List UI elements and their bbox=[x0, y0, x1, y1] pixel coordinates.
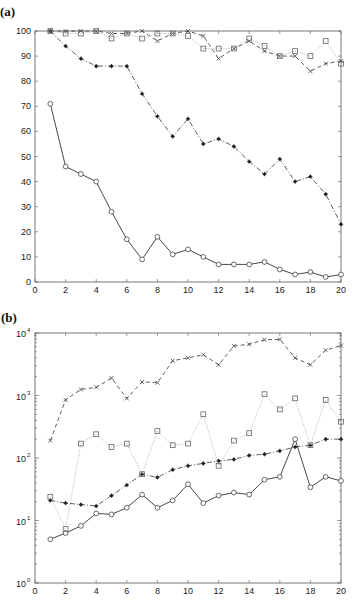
y-tick-label: 10 bbox=[16, 454, 26, 464]
data-point-circle bbox=[323, 275, 328, 280]
series-circle-solid bbox=[48, 101, 344, 279]
chart-panel-b: 02468101214161820100101102103104 bbox=[16, 327, 346, 596]
data-point-circle bbox=[155, 505, 160, 510]
data-point-circle bbox=[277, 474, 282, 479]
y-tick-label: 50 bbox=[21, 152, 31, 162]
data-point-star bbox=[63, 501, 67, 505]
x-tick-label: 20 bbox=[336, 586, 346, 596]
data-point-x bbox=[201, 34, 205, 38]
x-tick-label: 18 bbox=[305, 586, 315, 596]
data-point-x bbox=[201, 353, 205, 357]
y-tick-label: 10 bbox=[21, 252, 31, 262]
data-point-square bbox=[216, 463, 221, 468]
y-tick-label: 30 bbox=[21, 202, 31, 212]
y-tick-label: 10 bbox=[16, 329, 26, 339]
y-tick-label: 0 bbox=[26, 277, 31, 287]
figure: (a) (b) 02468101214161820010203040506070… bbox=[0, 0, 359, 607]
data-point-circle bbox=[63, 164, 68, 169]
data-point-star bbox=[155, 114, 159, 118]
data-point-x bbox=[217, 363, 221, 367]
data-point-x bbox=[155, 39, 159, 43]
data-point-star bbox=[79, 56, 83, 60]
data-point-circle bbox=[293, 272, 298, 277]
series-line-circle-solid bbox=[50, 104, 341, 277]
data-point-circle bbox=[170, 252, 175, 257]
series-line-star-dashdot bbox=[50, 439, 341, 506]
data-point-circle bbox=[79, 172, 84, 177]
data-point-star bbox=[324, 437, 328, 441]
series-line-x-dashed bbox=[50, 339, 341, 440]
x-tick-label: 14 bbox=[244, 285, 254, 295]
data-point-star bbox=[186, 464, 190, 468]
x-tick-label: 4 bbox=[94, 285, 99, 295]
data-point-star bbox=[94, 64, 98, 68]
data-point-circle bbox=[277, 267, 282, 272]
data-point-circle bbox=[293, 437, 298, 442]
data-point-star bbox=[278, 449, 282, 453]
x-tick-label: 14 bbox=[244, 586, 254, 596]
plot-area-frame bbox=[35, 31, 341, 282]
data-point-circle bbox=[262, 260, 267, 265]
x-tick-label: 0 bbox=[32, 586, 37, 596]
data-point-x bbox=[110, 32, 114, 36]
data-point-circle bbox=[186, 247, 191, 252]
data-point-square bbox=[201, 46, 206, 51]
x-tick-label: 8 bbox=[155, 285, 160, 295]
x-tick-label: 8 bbox=[155, 586, 160, 596]
data-point-star bbox=[339, 222, 343, 226]
x-tick-label: 2 bbox=[63, 586, 68, 596]
data-point-star bbox=[201, 142, 205, 146]
x-tick-label: 10 bbox=[183, 586, 193, 596]
plot-area-frame bbox=[35, 333, 341, 583]
series-circle-solid bbox=[48, 437, 344, 542]
data-point-circle bbox=[109, 209, 114, 214]
x-tick-label: 12 bbox=[214, 586, 224, 596]
data-point-circle bbox=[140, 492, 145, 497]
data-point-circle bbox=[79, 523, 84, 528]
y-tick-label: 100 bbox=[16, 26, 31, 36]
y-tick-exponent: 1 bbox=[27, 515, 31, 521]
data-point-star bbox=[216, 137, 220, 141]
data-point-circle bbox=[308, 270, 313, 275]
x-tick-label: 10 bbox=[183, 285, 193, 295]
data-point-star bbox=[109, 64, 113, 68]
data-point-x bbox=[308, 363, 312, 367]
data-point-circle bbox=[94, 511, 99, 516]
series-square-dotted bbox=[48, 392, 344, 532]
data-point-star bbox=[247, 453, 251, 457]
data-point-square bbox=[277, 407, 282, 412]
data-point-star bbox=[155, 475, 159, 479]
data-point-circle bbox=[94, 179, 99, 184]
y-tick-label: 90 bbox=[21, 51, 31, 61]
data-point-x bbox=[125, 396, 129, 400]
data-point-circle bbox=[124, 505, 129, 510]
data-point-circle bbox=[247, 492, 252, 497]
data-point-circle bbox=[170, 498, 175, 503]
y-tick-exponent: 4 bbox=[27, 327, 31, 333]
data-point-x bbox=[217, 57, 221, 61]
data-point-circle bbox=[262, 477, 267, 482]
y-tick-label: 20 bbox=[21, 227, 31, 237]
data-point-square bbox=[232, 438, 237, 443]
series-star-dashdot bbox=[48, 29, 343, 227]
data-point-star bbox=[125, 64, 129, 68]
data-point-star bbox=[94, 504, 98, 508]
x-tick-label: 4 bbox=[94, 586, 99, 596]
data-point-star bbox=[324, 192, 328, 196]
y-tick-label: 70 bbox=[21, 101, 31, 111]
data-point-square bbox=[247, 36, 252, 41]
data-point-circle bbox=[48, 537, 53, 542]
data-point-circle bbox=[232, 262, 237, 267]
y-tick-label: 10 bbox=[16, 579, 26, 589]
data-point-star bbox=[308, 443, 312, 447]
data-point-circle bbox=[186, 482, 191, 487]
x-tick-label: 12 bbox=[214, 285, 224, 295]
y-tick-label: 40 bbox=[21, 177, 31, 187]
x-tick-label: 20 bbox=[336, 285, 346, 295]
data-point-circle bbox=[323, 474, 328, 479]
series-star-dashdot bbox=[48, 437, 343, 508]
y-tick-exponent: 2 bbox=[27, 452, 31, 458]
data-point-square bbox=[155, 429, 160, 434]
chart-panel-a: 024681012141618200102030405060708090100 bbox=[16, 26, 346, 295]
panel-label-b: (b) bbox=[1, 310, 17, 325]
